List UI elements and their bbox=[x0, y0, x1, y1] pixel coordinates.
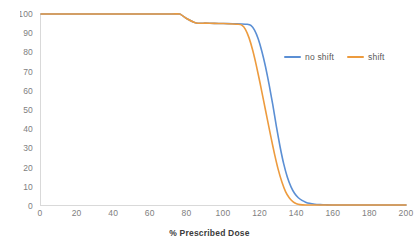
x-tick-label: 60 bbox=[145, 208, 155, 218]
x-tick-label: 80 bbox=[181, 208, 191, 218]
x-tick-label: 100 bbox=[216, 208, 231, 218]
x-tick-label: 140 bbox=[289, 208, 304, 218]
x-tick-label: 180 bbox=[362, 208, 377, 218]
y-tick-label: 90 bbox=[23, 28, 33, 38]
y-tick-label: 100 bbox=[20, 9, 33, 19]
legend-color-swatch bbox=[284, 56, 301, 58]
x-tick-label: 160 bbox=[325, 208, 340, 218]
y-tick-label: 30 bbox=[23, 143, 33, 153]
x-tick-label: 0 bbox=[38, 208, 43, 218]
y-axis-tick-labels: 0102030405060708090100 bbox=[0, 14, 36, 206]
x-axis-title: % Prescribed Dose bbox=[0, 228, 419, 238]
y-tick-label: 50 bbox=[23, 105, 33, 115]
x-tick-label: 20 bbox=[72, 208, 82, 218]
y-tick-label: 80 bbox=[23, 47, 33, 57]
chart-legend: no shiftshift bbox=[284, 52, 385, 62]
legend-label: no shift bbox=[305, 52, 334, 62]
y-tick-label: 70 bbox=[23, 67, 33, 77]
x-tick-label: 120 bbox=[252, 208, 267, 218]
x-axis-tick-labels: 020406080100120140160180200 bbox=[40, 208, 406, 222]
legend-color-swatch bbox=[347, 56, 364, 58]
legend-label: shift bbox=[368, 52, 385, 62]
x-tick-label: 40 bbox=[108, 208, 118, 218]
plot-area bbox=[40, 14, 406, 206]
y-tick-label: 10 bbox=[23, 182, 33, 192]
legend-entry-no-shift[interactable]: no shift bbox=[284, 52, 334, 62]
legend-entry-shift[interactable]: shift bbox=[347, 52, 385, 62]
plot-svg bbox=[41, 14, 406, 205]
dose-volume-histogram-chart: 0102030405060708090100 02040608010012014… bbox=[0, 0, 419, 249]
y-tick-label: 40 bbox=[23, 124, 33, 134]
series-line-shift bbox=[41, 14, 406, 205]
x-tick-label: 200 bbox=[399, 208, 414, 218]
y-tick-label: 20 bbox=[23, 163, 33, 173]
series-line-no-shift bbox=[41, 14, 406, 205]
y-tick-label: 0 bbox=[28, 201, 33, 211]
y-tick-label: 60 bbox=[23, 86, 33, 96]
